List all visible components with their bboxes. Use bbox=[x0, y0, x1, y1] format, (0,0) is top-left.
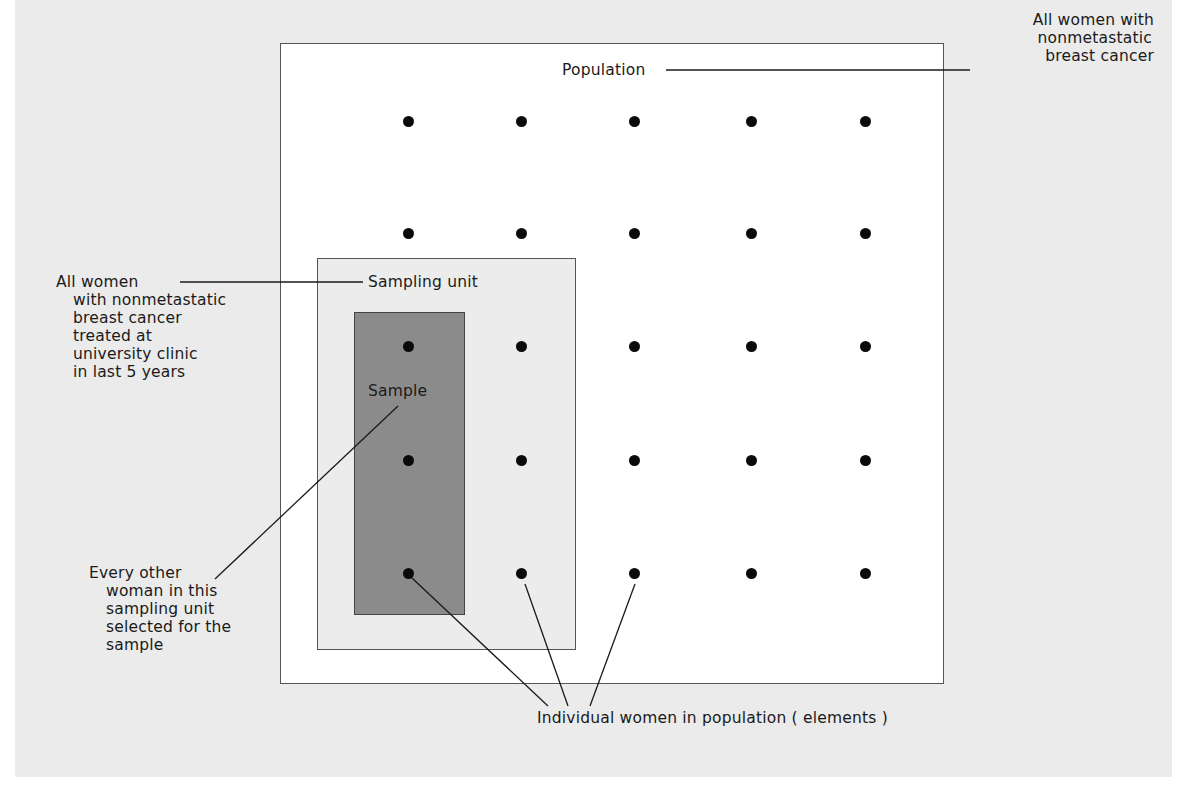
sample-label: Sample bbox=[368, 382, 427, 400]
sample-description-line-5: sample bbox=[89, 636, 231, 654]
element-dot bbox=[516, 116, 527, 127]
element-dot bbox=[403, 228, 414, 239]
element-dot bbox=[746, 228, 757, 239]
element-dot bbox=[516, 228, 527, 239]
element-dot bbox=[860, 568, 871, 579]
sampling-unit-description-line-6: in last 5 years bbox=[56, 363, 226, 381]
element-dot bbox=[746, 455, 757, 466]
sample-description-line-3: sampling unit bbox=[89, 600, 231, 618]
population-description-line-3: breast cancer bbox=[976, 47, 1154, 65]
sample-description-line-4: selected for the bbox=[89, 618, 231, 636]
element-dot bbox=[629, 568, 640, 579]
sampling-unit-description-line-1: All women bbox=[56, 273, 226, 291]
element-dot bbox=[860, 116, 871, 127]
population-description-line-1: All women with bbox=[976, 11, 1154, 29]
element-dot bbox=[629, 116, 640, 127]
sample-description: Every other woman in this sampling unit … bbox=[89, 564, 231, 654]
sampling-unit-description-line-2: with nonmetastatic bbox=[56, 291, 226, 309]
elements-label: Individual women in population ( element… bbox=[537, 709, 888, 727]
element-dot bbox=[860, 228, 871, 239]
element-dot bbox=[629, 341, 640, 352]
sampling-unit-description-line-4: treated at bbox=[56, 327, 226, 345]
sampling-unit-description-line-5: university clinic bbox=[56, 345, 226, 363]
sample-description-line-1: Every other bbox=[89, 564, 231, 582]
element-dot bbox=[629, 455, 640, 466]
element-dot bbox=[516, 455, 527, 466]
element-dot bbox=[629, 228, 640, 239]
sampling-unit-description-line-3: breast cancer bbox=[56, 309, 226, 327]
element-dot bbox=[746, 116, 757, 127]
sample-description-line-2: woman in this bbox=[89, 582, 231, 600]
element-dot bbox=[403, 116, 414, 127]
sampling-unit-description: All women with nonmetastatic breast canc… bbox=[56, 273, 226, 381]
sampling-unit-label: Sampling unit bbox=[368, 273, 478, 291]
element-dot bbox=[516, 568, 527, 579]
element-dot bbox=[860, 341, 871, 352]
population-label: Population bbox=[562, 61, 645, 79]
element-dot bbox=[516, 341, 527, 352]
element-dot bbox=[860, 455, 871, 466]
element-dot bbox=[403, 568, 414, 579]
population-description: All women with nonmetastatic breast canc… bbox=[976, 11, 1154, 65]
element-dot bbox=[746, 341, 757, 352]
element-dot bbox=[403, 455, 414, 466]
element-dot bbox=[746, 568, 757, 579]
population-description-line-2: nonmetastatic bbox=[976, 29, 1154, 47]
element-dot bbox=[403, 341, 414, 352]
